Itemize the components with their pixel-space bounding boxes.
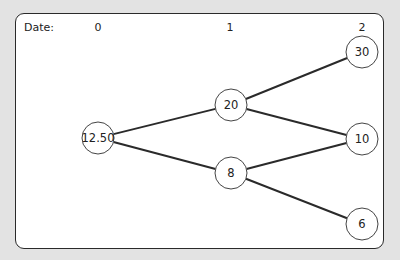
tree-edges [113,58,347,218]
node-value: 6 [358,217,365,231]
tree-edge [113,142,215,169]
period-label-0: 0 [95,21,102,34]
tree-node-n0: 12.50 [82,122,115,154]
node-value: 20 [224,98,239,112]
node-value: 30 [355,45,370,59]
node-value: 10 [355,132,370,146]
period-label-1: 1 [227,21,234,34]
period-label-2: 2 [359,21,366,34]
binomial-tree-diagram: Date: 0 1 2 12.5020830106 [0,0,400,260]
tree-edge [246,143,346,169]
node-value: 12.50 [82,131,115,145]
tree-node-n1d: 8 [215,157,247,189]
tree-nodes: 12.5020830106 [82,36,378,240]
tree-edge [114,109,216,134]
tree-node-n2dd: 6 [346,208,378,240]
tree-edge [246,58,347,99]
date-label: Date: [24,21,54,34]
tree-node-n1u: 20 [215,89,247,121]
node-value: 8 [227,166,234,180]
tree-edge [246,109,346,135]
tree-edge [246,179,347,218]
tree-node-n2ud: 10 [346,123,378,155]
tree-node-n2uu: 30 [346,36,378,68]
